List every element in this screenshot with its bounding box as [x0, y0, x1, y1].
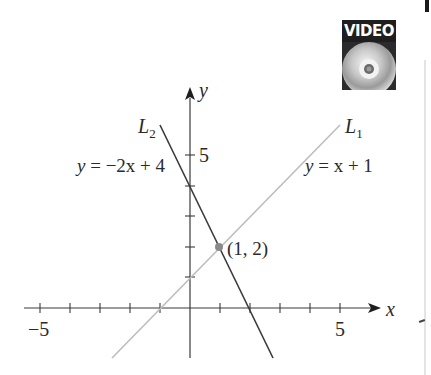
x-tick-label-5: 5 [335, 318, 345, 340]
x-tick-label-neg5: −5 [28, 318, 49, 340]
l2-name: L [137, 115, 149, 137]
l1-equation-rest: = x + 1 [313, 155, 372, 176]
l1-name-label: L1 [344, 115, 363, 141]
l2-subscript: 2 [149, 126, 156, 141]
page-edge-mark [425, 0, 429, 12]
y-tick-label-5: 5 [199, 144, 209, 166]
cd-disc-icon [342, 42, 396, 90]
l2-name-label: L2 [137, 115, 156, 141]
video-badge-button[interactable]: VIDEO [342, 20, 396, 90]
l1-subscript: 1 [356, 126, 363, 141]
l1-name: L [344, 115, 356, 137]
y-axis-label: y [197, 79, 208, 102]
l1-equation-y: y [303, 155, 314, 176]
l2-equation-y: y [75, 155, 86, 176]
intersection-point [215, 243, 223, 251]
l1-equation-label: y = x + 1 [303, 155, 373, 176]
video-label: VIDEO [342, 20, 396, 42]
x-axis: −5 5 x [24, 298, 395, 340]
x-axis-label: x [385, 298, 395, 320]
page-edge-line [424, 60, 426, 375]
l2-equation-rest: = −2x + 4 [85, 155, 165, 176]
l2-equation-label: y = −2x + 4 [75, 155, 166, 176]
intersection-label: (1, 2) [227, 238, 268, 260]
